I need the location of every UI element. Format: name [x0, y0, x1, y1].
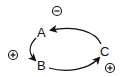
plus-circle-icon-bottom-right — [106, 64, 115, 73]
edge-c-to-a — [51, 28, 101, 44]
plus-circle-icon-left — [9, 51, 18, 60]
minus-circle-icon — [53, 7, 62, 16]
node-c: C — [100, 44, 109, 59]
causal-loop-diagram: A B C — [0, 0, 122, 77]
edge-a-to-b — [30, 38, 36, 60]
node-a: A — [37, 25, 46, 40]
node-b: B — [37, 58, 46, 73]
edge-b-to-c — [49, 58, 99, 70]
